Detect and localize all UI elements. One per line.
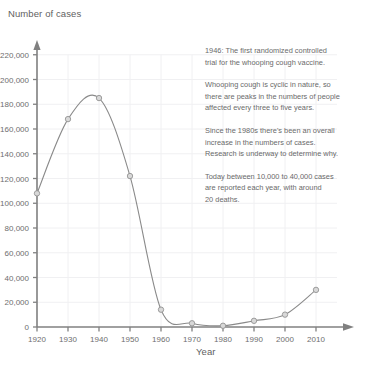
x-tick-label: 1950 (121, 335, 139, 344)
annotation-paragraph-4: Today between 10,000 to 40,000 cases are… (205, 171, 363, 206)
y-tick-label: 200,000 (0, 75, 29, 84)
y-tick-label: 100,000 (0, 199, 29, 208)
x-tick-label: 2010 (307, 335, 325, 344)
annotation-paragraph-1: 1946: The first randomized controlled tr… (205, 45, 363, 68)
annotation-text-block: 1946: The first randomized controlled tr… (205, 45, 363, 206)
x-tick-label: 1980 (214, 335, 232, 344)
x-tick-label: 1940 (90, 335, 108, 344)
whooping-cough-cases-chart: Number of cases Year 020,00040,00060,000… (0, 0, 366, 366)
y-tick-label: 40,000 (0, 273, 29, 282)
annotation-paragraph-3: Since the 1980s there's been an overall … (205, 125, 363, 160)
y-tick-label: 160,000 (0, 125, 29, 134)
y-tick-label: 120,000 (0, 174, 29, 183)
y-tick-label: 0 (0, 323, 29, 332)
x-tick-label: 2000 (276, 335, 294, 344)
x-tick-label: 1960 (152, 335, 170, 344)
y-tick-label: 220,000 (0, 50, 29, 59)
y-tick-label: 20,000 (0, 298, 29, 307)
y-tick-label: 180,000 (0, 100, 29, 109)
x-tick-label: 1920 (28, 335, 46, 344)
y-tick-label: 80,000 (0, 224, 29, 233)
annotation-paragraph-2: Whooping cough is cyclic in nature, so t… (205, 79, 363, 114)
x-tick-label: 1990 (245, 335, 263, 344)
x-tick-label: 1930 (59, 335, 77, 344)
y-tick-label: 140,000 (0, 149, 29, 158)
y-tick-label: 60,000 (0, 248, 29, 257)
x-tick-label: 1970 (183, 335, 201, 344)
